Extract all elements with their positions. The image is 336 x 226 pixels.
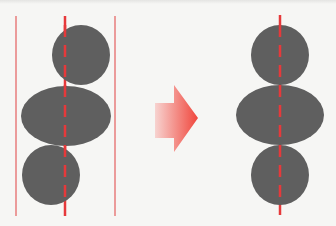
- diagram-canvas: [0, 0, 336, 226]
- cropped-header-strip: [0, 0, 336, 4]
- before-panel: [16, 16, 115, 216]
- top-circle: [52, 25, 110, 85]
- alignment-diagram: [0, 0, 336, 226]
- after-panel: [236, 15, 324, 215]
- arrow-right-icon: [155, 85, 198, 152]
- bottom-circle: [22, 145, 80, 205]
